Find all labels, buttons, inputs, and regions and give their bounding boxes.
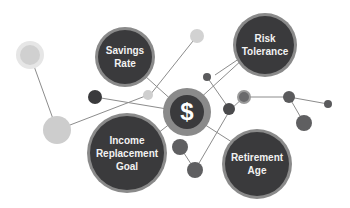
dollar-icon: $ xyxy=(170,95,204,129)
node-retirement-age: Retirement Age xyxy=(222,131,292,197)
node-savings-rate: Savings Rate xyxy=(97,30,153,84)
node-income-replacement-goal: Income Replacement Goal xyxy=(88,114,166,192)
diagram-canvas: $ Savings Rate Risk Tolerance Income Rep… xyxy=(0,0,350,208)
node-risk-tolerance: Risk Tolerance xyxy=(234,16,296,74)
